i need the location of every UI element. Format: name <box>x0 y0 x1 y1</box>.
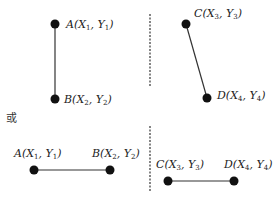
panel-bottom-right: C(X3, Y3) D(X4, Y4) <box>156 158 272 186</box>
label-b: B(X2, Y2) <box>63 93 112 107</box>
label-c: C(X3, Y3) <box>194 7 242 21</box>
point-d-bottom <box>230 177 239 186</box>
label-a-bottom: A(X1, Y1) <box>13 147 62 161</box>
label-a: A(X1, Y1) <box>65 18 114 32</box>
panel-top-left: A(X1, Y1) B(X2, Y2) <box>51 18 114 107</box>
point-c-bottom <box>164 177 173 186</box>
point-a <box>51 20 60 29</box>
panel-bottom-left: A(X1, Y1) B(X2, Y2) <box>13 147 140 175</box>
label-b-bottom: B(X2, Y2) <box>91 147 140 161</box>
diagram-canvas: A(X1, Y1) B(X2, Y2) C(X3, Y3) D(X4, Y4) … <box>0 0 278 202</box>
point-b <box>51 95 60 104</box>
panel-top-right: C(X3, Y3) D(X4, Y4) <box>182 7 266 103</box>
label-c-bottom: C(X3, Y3) <box>156 158 204 172</box>
point-d <box>203 94 212 103</box>
or-text: 或 <box>6 112 17 125</box>
segment-cd-diagonal <box>186 24 207 98</box>
label-d: D(X4, Y4) <box>216 89 265 103</box>
label-d-bottom: D(X4, Y4) <box>223 158 272 172</box>
point-a-bottom <box>30 166 39 175</box>
point-b-bottom <box>106 166 115 175</box>
point-c <box>182 20 191 29</box>
diagram-svg: A(X1, Y1) B(X2, Y2) C(X3, Y3) D(X4, Y4) … <box>0 0 278 202</box>
